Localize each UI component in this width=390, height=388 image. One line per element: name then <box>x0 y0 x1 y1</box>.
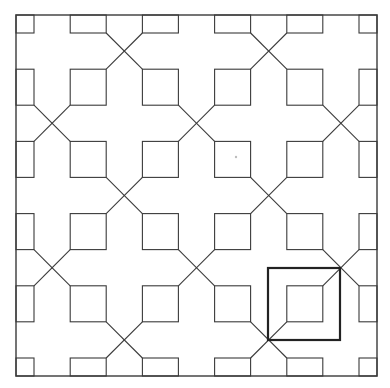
lattice-square <box>142 286 178 322</box>
lattice-square <box>287 214 323 250</box>
lattice-square <box>215 141 251 177</box>
lattice-square <box>70 141 106 177</box>
lattice-square <box>16 358 34 376</box>
lattice-square <box>215 214 251 250</box>
lattice-square <box>359 214 377 250</box>
lattice-square <box>142 141 178 177</box>
lattice-square <box>359 141 377 177</box>
tiling-diagram <box>0 0 390 388</box>
lattice-square <box>287 141 323 177</box>
lattice-square <box>70 69 106 105</box>
lattice-square <box>287 15 323 33</box>
lattice-square <box>16 15 34 33</box>
lattice-square <box>359 286 377 322</box>
lattice-square <box>215 69 251 105</box>
diagonal-crossings <box>34 33 359 358</box>
lattice-square <box>16 214 34 250</box>
lattice-square <box>70 286 106 322</box>
lattice-square <box>359 69 377 105</box>
lattice-square <box>215 286 251 322</box>
lattice-square <box>70 15 106 33</box>
lattice-square <box>287 358 323 376</box>
lattice-squares <box>16 15 377 376</box>
lattice-square <box>287 286 323 322</box>
lattice-square <box>287 69 323 105</box>
lattice-square <box>142 15 178 33</box>
lattice-square <box>142 214 178 250</box>
lattice-square <box>16 69 34 105</box>
lattice-square <box>16 141 34 177</box>
lattice-square <box>70 358 106 376</box>
lattice-square <box>215 358 251 376</box>
lattice-square <box>215 15 251 33</box>
stray-dot <box>235 156 237 158</box>
lattice-square <box>359 358 377 376</box>
lattice-square <box>70 214 106 250</box>
lattice-square <box>142 358 178 376</box>
lattice-square <box>359 15 377 33</box>
lattice-square <box>16 286 34 322</box>
lattice-square <box>142 69 178 105</box>
